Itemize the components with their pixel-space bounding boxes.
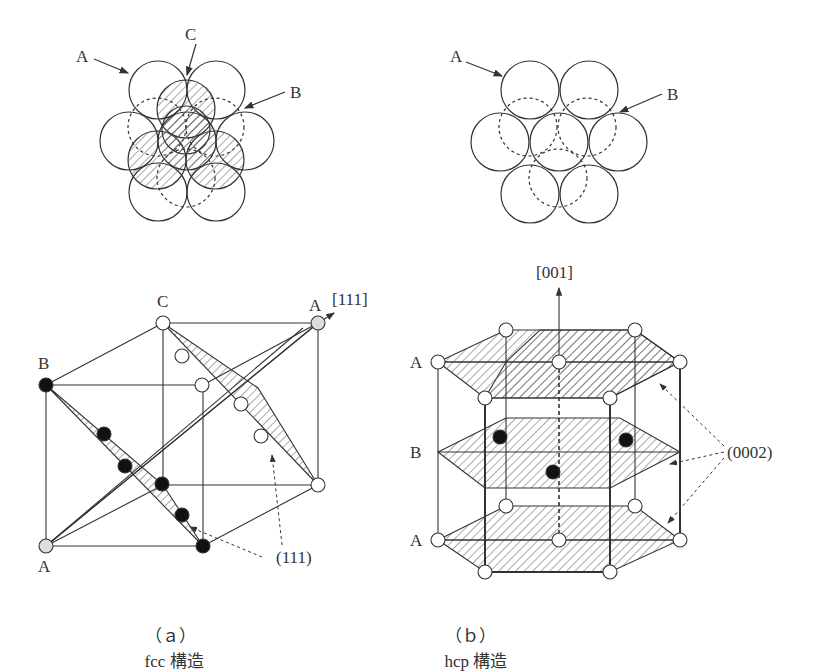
plane-111: (111) [276,548,312,567]
direction-111: [111] [332,290,368,309]
layer-label-middle: B [410,443,421,462]
hcp-top-labels: A B [450,47,678,112]
fcc-top-view [100,61,274,221]
label-b: B [290,83,301,102]
caption-a: （ａ） fcc 構造 [136,602,204,672]
label-a: A [450,47,463,66]
caption-a-text: fcc 構造 [145,652,204,671]
label-c: C [185,25,196,44]
layer-label-bottom: A [410,531,423,550]
hcp-unit-cell [438,288,680,572]
caption-b: （ｂ） hcp 構造 [436,602,507,672]
direction-001: [001] [536,263,573,282]
label-c-top: C [157,292,168,311]
layer-label-top: A [410,353,423,372]
caption-a-index: （ａ） [145,627,196,646]
label-a-top: A [309,296,322,315]
fcc-unit-cell [46,313,334,546]
label-b: B [667,85,678,104]
caption-b-text: hcp 構造 [445,652,508,671]
label-b-left: B [38,354,49,373]
label-a-bottom: A [38,557,51,576]
plane-0002: (0002) [727,443,772,462]
label-a: A [76,47,89,66]
hcp-top-view [471,61,647,223]
caption-b-index: （ｂ） [445,627,496,646]
